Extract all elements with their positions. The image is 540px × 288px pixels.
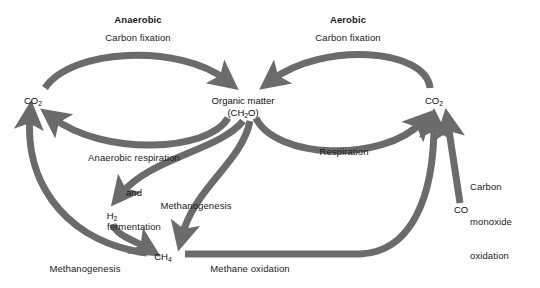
node-co2-left-text: CO: [24, 95, 38, 106]
label-anaerobic-respiration-line1: Anaerobic respiration: [88, 152, 180, 164]
heading-aerobic: Aerobic: [330, 14, 366, 26]
node-h2-sub: 2: [114, 215, 118, 222]
label-anaerobic-respiration: Anaerobic respiration and fermentation: [88, 129, 180, 256]
node-organic-matter-text: Organic matter: [212, 95, 275, 106]
node-organic-matter: Organic matter: [212, 95, 275, 107]
label-respiration: Respiration: [319, 146, 368, 158]
label-co-oxidation-line2: monoxide: [470, 216, 512, 228]
node-h2: H2: [107, 210, 118, 223]
node-co2-right-text: CO: [425, 95, 439, 106]
arrow-carbon-fixation-aerobic: [272, 55, 430, 88]
label-methane-oxidation: Methane oxidation: [210, 263, 289, 275]
node-co2-left: CO2: [24, 95, 42, 108]
node-co2-right-sub: 2: [439, 100, 443, 107]
label-co-oxidation-line1: Carbon: [470, 181, 512, 193]
node-ch4-text: CH: [154, 251, 168, 262]
heading-anaerobic: Anaerobic: [114, 14, 161, 26]
label-methanogenesis-left: Methanogenesis: [49, 263, 120, 275]
node-ch4-sub: 4: [168, 256, 172, 263]
label-carbon-fixation-anaerobic: Carbon fixation: [105, 32, 170, 44]
node-h2-text: H: [107, 210, 114, 221]
label-carbon-monoxide-oxidation: Carbon monoxide oxidation: [470, 158, 512, 285]
carbon-cycle-diagram: Anaerobic Aerobic Carbon fixation Carbon…: [0, 0, 540, 288]
arrow-carbon-fixation-anaerobic: [45, 55, 226, 88]
label-anaerobic-respiration-line2: and: [88, 187, 180, 199]
node-co-text: CO: [454, 204, 468, 215]
node-organic-formula-sub: 2: [244, 112, 248, 119]
arrow-co-oxidation: [448, 124, 460, 203]
node-organic-matter-formula: (CH2O): [227, 107, 258, 120]
node-ch4: CH4: [154, 251, 172, 264]
node-co2-left-sub: 2: [38, 100, 42, 107]
label-anaerobic-respiration-line3: fermentation: [88, 221, 180, 233]
node-organic-formula-text: (CH: [227, 107, 244, 118]
arrow-methane-oxidation: [185, 124, 434, 254]
label-carbon-fixation-aerobic: Carbon fixation: [315, 32, 380, 44]
diagram-canvas: [0, 0, 540, 288]
label-co-oxidation-line3: oxidation: [470, 250, 512, 262]
node-co2-right: CO2: [425, 95, 443, 108]
label-methanogenesis-center: Methanogenesis: [160, 200, 231, 212]
node-organic-formula-tail: O): [248, 107, 259, 118]
node-co: CO: [454, 204, 468, 216]
